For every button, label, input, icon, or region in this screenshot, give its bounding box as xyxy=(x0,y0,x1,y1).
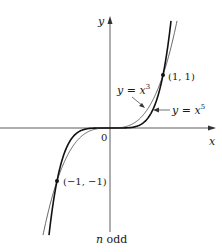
point-label-one-one: (1, 1) xyxy=(168,71,195,82)
caption: n odd xyxy=(96,233,127,246)
origin-label: 0 xyxy=(101,132,107,143)
point-one-one xyxy=(161,73,165,77)
x-axis-arrow-icon xyxy=(208,126,216,131)
point-neg-one-neg-one xyxy=(55,179,59,183)
y-axis-arrow-icon xyxy=(108,16,113,24)
power-function-graph: y x 0 (1, 1) (−1, −1) y = x3 y = x5 n od… xyxy=(0,0,222,252)
x-axis-label: x xyxy=(209,135,216,148)
point-label-neg-one: (−1, −1) xyxy=(63,176,107,187)
y-axis-label: y xyxy=(97,15,105,28)
curve-label-x-cubed: y = x3 xyxy=(116,83,150,97)
curve-label-x-fifth: y = x5 xyxy=(171,103,205,117)
axes xyxy=(0,16,216,232)
